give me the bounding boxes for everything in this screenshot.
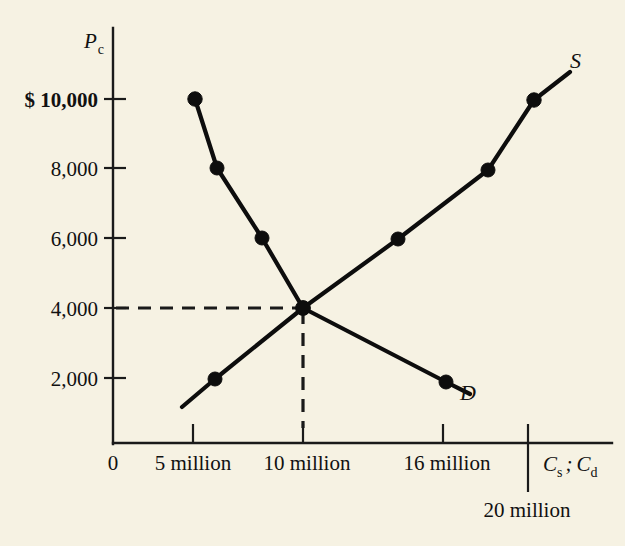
- equilibrium-point: [296, 301, 311, 316]
- y-axis-title: Pc: [83, 29, 104, 57]
- y-tick-label-6000: 6,000: [51, 227, 98, 251]
- x-axis-title: Cs;Cd: [543, 452, 597, 480]
- chart-canvas: $ 10,000 8,000 6,000 4,000 2,000 0 5 mil…: [0, 0, 625, 546]
- x-tick-label-16-million: 16 million: [404, 451, 491, 475]
- demand-point-1900: [439, 375, 453, 389]
- y-axis-title-main: P: [83, 29, 97, 53]
- x-tick-label-0: 0: [108, 451, 119, 475]
- supply-curve-label: S: [570, 48, 581, 73]
- demand-point-8000: [210, 161, 224, 175]
- x-axis-title-first-subscript: s: [557, 465, 562, 480]
- demand-point-6000: [255, 231, 269, 245]
- demand-curve: [195, 99, 470, 394]
- x-axis-title-second-subscript: d: [590, 465, 597, 480]
- y-tick-label-2000: 2,000: [51, 367, 98, 391]
- x-tick-label-10-million: 10 million: [264, 451, 351, 475]
- y-tick-label-4000: 4,000: [51, 297, 98, 321]
- demand-point-10000: [188, 92, 202, 106]
- x-axis-title-separator: ;: [565, 452, 572, 476]
- supply-point-2000: [208, 372, 222, 386]
- y-tick-label-8000: 8,000: [51, 157, 98, 181]
- supply-point-6000: [391, 232, 405, 246]
- x-tick-label-5-million: 5 million: [155, 451, 232, 475]
- supply-demand-chart: $ 10,000 8,000 6,000 4,000 2,000 0 5 mil…: [0, 0, 625, 546]
- x-axis-title-second-main: C: [576, 452, 591, 476]
- supply-point-10000: [527, 93, 541, 107]
- twenty-million-note: 20 million: [484, 498, 571, 522]
- x-axis-title-first-main: C: [543, 452, 558, 476]
- supply-curve: [182, 72, 570, 407]
- supply-point-8000: [481, 163, 495, 177]
- demand-curve-label: D: [459, 380, 476, 405]
- y-tick-label-10000: $ 10,000: [25, 88, 99, 112]
- y-axis-title-subscript: c: [98, 42, 104, 57]
